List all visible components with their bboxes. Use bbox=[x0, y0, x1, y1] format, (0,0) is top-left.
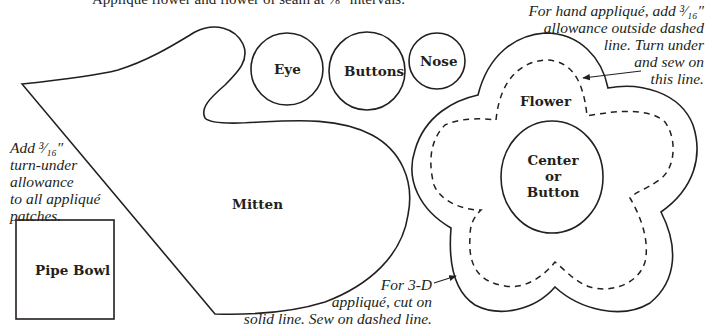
nose-label: Nose bbox=[420, 53, 458, 69]
allowance-note-line: allowance bbox=[10, 173, 100, 190]
center-label-line-3: Button bbox=[522, 184, 584, 200]
mitten-label: Mitten bbox=[232, 196, 283, 212]
three-d-note: For 3-D appliqué, cut on solid line. Sew… bbox=[244, 276, 432, 327]
hand-applique-note-line: and sew on bbox=[528, 53, 704, 70]
hand-applique-note-line: For hand appliqué, add ³⁄₁₆″ bbox=[528, 2, 704, 19]
center-label-line-1: Center bbox=[522, 152, 584, 168]
hand-applique-note-line: this line. bbox=[528, 70, 704, 87]
pipe-bowl-label: Pipe Bowl bbox=[35, 262, 110, 278]
three-d-note-line: For 3-D bbox=[244, 276, 432, 293]
three-d-arrow bbox=[434, 276, 456, 283]
flower-label: Flower bbox=[520, 93, 571, 109]
allowance-note-line: Add ³⁄₁₆″ bbox=[10, 139, 100, 156]
allowance-note-line: patches. bbox=[10, 207, 100, 224]
center-label-line-2: or bbox=[522, 168, 584, 184]
allowance-note-line: turn-under bbox=[10, 156, 100, 173]
center-label: Center or Button bbox=[522, 152, 584, 200]
three-d-note-line: solid line. Sew on dashed line. bbox=[244, 310, 432, 327]
allowance-note: Add ³⁄₁₆″ turn-under allowance to all ap… bbox=[10, 139, 100, 224]
hand-applique-note: For hand appliqué, add ³⁄₁₆″ allowance o… bbox=[528, 2, 704, 87]
hand-applique-note-line: line. Turn under bbox=[528, 36, 704, 53]
hand-applique-note-line: allowance outside dashed bbox=[528, 19, 704, 36]
three-d-note-line: appliqué, cut on bbox=[244, 293, 432, 310]
eye-label: Eye bbox=[274, 61, 301, 77]
allowance-note-line: to all appliqué bbox=[10, 190, 100, 207]
buttons-label: Buttons bbox=[344, 63, 404, 79]
